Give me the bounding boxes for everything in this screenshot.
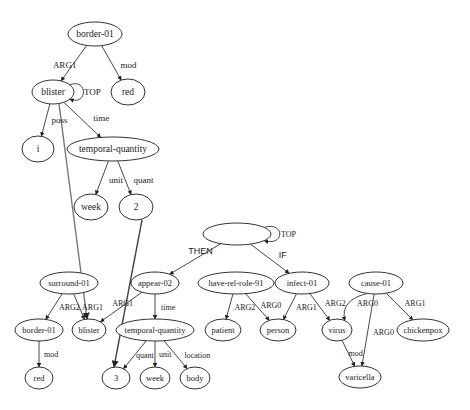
- node-body: body: [180, 367, 210, 389]
- node-label: person: [267, 325, 290, 335]
- edge-label: THEN: [188, 246, 213, 256]
- node-label: blister: [78, 325, 99, 335]
- edge-time: time: [64, 102, 109, 137]
- edge-label: quant: [133, 175, 153, 185]
- node-label: week: [81, 202, 101, 212]
- node-surround-01: surround-01: [40, 272, 98, 294]
- edge-label: ARG0: [357, 299, 378, 308]
- edge-label: ARG0: [373, 328, 394, 337]
- edge-arg2: ARG2: [226, 294, 255, 319]
- node-label: border-01: [76, 29, 114, 39]
- node-label: appear-02: [138, 278, 172, 288]
- edge-label: unit: [159, 350, 172, 359]
- node-label: red: [34, 373, 46, 383]
- node-label: cause-01: [361, 278, 391, 288]
- node-temporal-quantity: temporal-quantity: [116, 319, 194, 341]
- amr-alignment-diagram: ARG1modTOPposstimeunitquantTOPTHENIFARG2…: [0, 0, 470, 410]
- edge-label: time: [161, 303, 176, 312]
- node-label: 2: [134, 202, 139, 212]
- node-blank: [203, 223, 271, 245]
- edge-label: mod: [348, 349, 362, 358]
- node-label: 3: [114, 373, 118, 383]
- node-label: red: [122, 87, 134, 97]
- edge-label: ARG1: [82, 303, 103, 312]
- node-label: virus: [329, 325, 346, 335]
- node-label: border-01: [22, 325, 55, 335]
- edge-mod: mod: [102, 46, 137, 80]
- edge-label: mod: [120, 60, 137, 70]
- edge-arg1: ARG1: [100, 292, 142, 322]
- node-infect-01: infect-01: [275, 272, 329, 294]
- edge-poss: poss: [41, 104, 68, 136]
- edge-label: TOP: [84, 87, 101, 97]
- node-label: infect-01: [287, 278, 318, 288]
- edge-mod: mod: [39, 341, 58, 367]
- edge-arg1: ARG1: [53, 45, 87, 80]
- node-label: week: [146, 373, 165, 383]
- node-appear-02: appear-02: [131, 272, 179, 294]
- node-temporal-quantity: temporal-quantity: [67, 137, 159, 161]
- alignment-line: [114, 220, 142, 367]
- node-red: red: [25, 367, 53, 389]
- node-label: blister: [41, 87, 66, 97]
- node-label: temporal-quantity: [125, 325, 187, 335]
- edge-quant: quant: [118, 161, 154, 195]
- edge-label: ARG0: [260, 301, 281, 310]
- edge-quant: quant: [124, 341, 155, 369]
- node-red: red: [111, 79, 145, 105]
- edge-if: IF: [250, 244, 289, 273]
- node-label: body: [187, 373, 205, 383]
- edge-arg0: ARG0: [344, 293, 378, 320]
- edge-label: location: [185, 351, 211, 360]
- edge-label: ARG1: [296, 303, 317, 312]
- edge-label: ARG1: [53, 60, 77, 70]
- node-person: person: [260, 319, 296, 341]
- node-label: patient: [211, 325, 235, 335]
- node-varicella: varicella: [339, 366, 381, 388]
- node-label: chickenpox: [403, 325, 443, 335]
- node-ellipse: [203, 223, 271, 245]
- node-i: i: [22, 136, 54, 162]
- node-virus: virus: [322, 319, 352, 341]
- node-label: i: [37, 144, 40, 154]
- node-week: week: [74, 194, 108, 220]
- edge-label: poss: [52, 115, 69, 125]
- edge-label: ARG2: [325, 299, 346, 308]
- node-label: varicella: [345, 372, 374, 382]
- edge-label: ARG1: [405, 299, 426, 308]
- edge-label: TOP: [281, 230, 297, 239]
- node-label: have-rel-role-91: [208, 278, 263, 288]
- edge-arg1: ARG1: [386, 293, 425, 320]
- edge-label: quant: [136, 351, 155, 360]
- edge-label: ARG1: [112, 299, 133, 308]
- node-border-01: border-01: [68, 22, 122, 46]
- node-blister: blister: [72, 319, 106, 341]
- node-3: 3: [102, 367, 130, 389]
- edge-then: THEN: [170, 244, 221, 275]
- node-label: temporal-quantity: [79, 144, 147, 154]
- edge-label: unit: [109, 175, 124, 185]
- edge-arg1: ARG1: [283, 294, 316, 320]
- edge-unit: unit: [155, 341, 172, 367]
- edge-label: ARG2: [59, 303, 80, 312]
- node-week: week: [140, 367, 170, 389]
- edge-mod: mod: [342, 340, 363, 366]
- edge-label: IF: [279, 250, 288, 260]
- edge-label: time: [93, 113, 109, 123]
- node-2: 2: [119, 194, 153, 220]
- node-cause-01: cause-01: [349, 272, 403, 294]
- node-patient: patient: [205, 319, 241, 341]
- node-label: surround-01: [48, 278, 90, 288]
- edge-time: time: [155, 294, 176, 319]
- node-chickenpox: chickenpox: [397, 319, 449, 341]
- node-border-01: border-01: [15, 319, 63, 341]
- edge-label: ARG2: [234, 303, 255, 312]
- edge-label: mod: [44, 350, 58, 359]
- node-have-rel-role-91: have-rel-role-91: [198, 272, 274, 294]
- node-blister: blister: [32, 80, 74, 104]
